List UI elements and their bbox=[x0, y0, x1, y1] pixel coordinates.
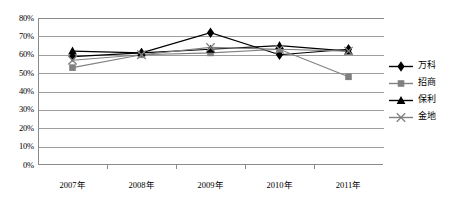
y-axis-tick-label: 60% bbox=[2, 50, 34, 59]
x-axis-tick-label: 2011年 bbox=[336, 180, 362, 190]
data-point-square bbox=[69, 64, 76, 71]
legend-item[interactable]: 金地 bbox=[388, 108, 458, 125]
line-chart: 0%10%20%30%40%50%60%70%80% 2007年2008年200… bbox=[0, 0, 458, 211]
data-point-diamond bbox=[207, 28, 214, 38]
y-axis-tick-label: 70% bbox=[2, 32, 34, 41]
chart-legend: 万科招商保利金地 bbox=[388, 57, 458, 125]
y-axis-tick-label: 40% bbox=[2, 87, 34, 96]
legend-marker-x-icon bbox=[388, 110, 414, 123]
x-axis-tick-label: 2008年 bbox=[129, 180, 155, 190]
y-axis-tick-label: 50% bbox=[2, 69, 34, 78]
data-point-square bbox=[345, 74, 352, 81]
legend-label: 招商 bbox=[418, 77, 436, 88]
data-point-diamond bbox=[397, 61, 404, 71]
y-axis-tick-label: 20% bbox=[2, 124, 34, 133]
y-axis-tick-label: 80% bbox=[2, 14, 34, 23]
legend-item[interactable]: 招商 bbox=[388, 74, 458, 91]
x-axis-tick-mark bbox=[314, 165, 315, 169]
x-axis-tick-label: 2007年 bbox=[60, 180, 86, 190]
x-axis-tick-mark bbox=[107, 165, 108, 169]
legend-item[interactable]: 万科 bbox=[388, 57, 458, 74]
legend-marker-diamond-icon bbox=[388, 59, 414, 72]
legend-label: 保利 bbox=[418, 94, 436, 105]
data-point-square bbox=[398, 80, 405, 87]
x-axis-tick-label: 2009年 bbox=[198, 180, 224, 190]
x-axis-tick-mark bbox=[245, 165, 246, 169]
data-point-triangle bbox=[275, 41, 284, 49]
legend-label: 金地 bbox=[418, 111, 436, 122]
y-axis-tick-label: 0% bbox=[2, 161, 34, 170]
x-axis-tick-mark bbox=[176, 165, 177, 169]
legend-label: 万科 bbox=[418, 60, 436, 71]
legend-item[interactable]: 保利 bbox=[388, 91, 458, 108]
legend-marker-triangle-icon bbox=[388, 93, 414, 106]
data-point-triangle bbox=[68, 46, 77, 54]
x-axis: 2007年2008年2009年2010年2011年 bbox=[38, 170, 383, 190]
legend-marker-square-icon bbox=[388, 76, 414, 89]
y-axis-tick-label: 10% bbox=[2, 142, 34, 151]
series-layer bbox=[38, 18, 383, 165]
y-axis: 0%10%20%30%40%50%60%70%80% bbox=[0, 0, 36, 211]
x-axis-tick-label: 2010年 bbox=[267, 180, 293, 190]
y-axis-tick-label: 30% bbox=[2, 105, 34, 114]
